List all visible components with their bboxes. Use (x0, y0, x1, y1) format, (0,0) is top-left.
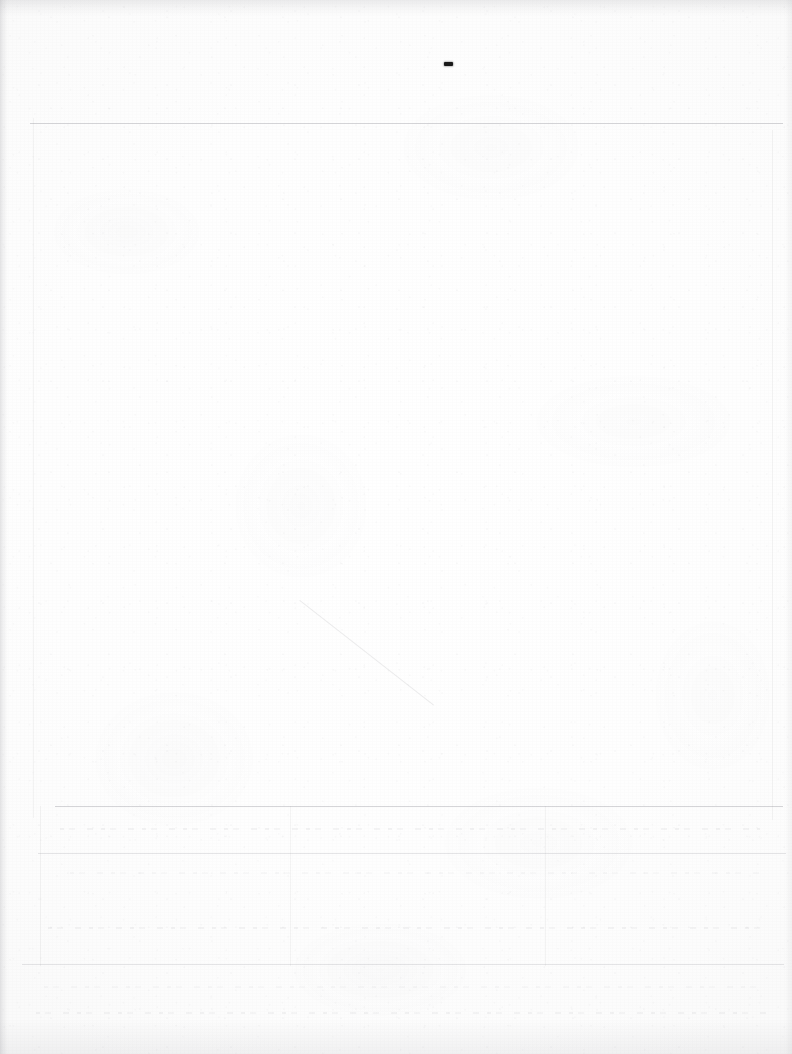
left-margin-rule (33, 118, 34, 818)
bottom-block-rule-3 (22, 964, 784, 965)
bottom-column-rule-left (40, 806, 41, 966)
bottom-block-rule-2 (38, 853, 786, 854)
bottom-column-rule-mid (290, 806, 291, 966)
bottom-column-rule-right (545, 806, 546, 966)
ink-dash-mark (444, 62, 453, 66)
bottom-block-rule-1 (55, 806, 783, 807)
paper-background (0, 0, 792, 1054)
scanned-page (0, 0, 792, 1054)
top-rule (30, 123, 783, 124)
right-margin-rule (772, 130, 773, 820)
